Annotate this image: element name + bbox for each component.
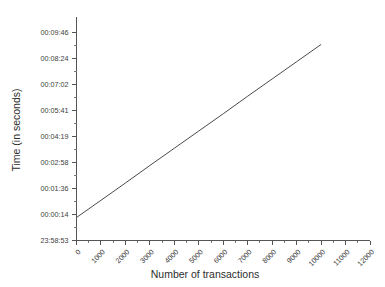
y-tick-label: 00:01:36 — [41, 184, 69, 193]
x-axis-title: Number of transactions — [151, 268, 260, 280]
y-axis-tick-labels: 23:58:5300:00:1400:01:3600:02:5800:04:19… — [41, 28, 69, 246]
y-tick-label: 00:00:14 — [41, 210, 69, 219]
y-tick-label: 00:05:41 — [41, 106, 69, 115]
line-chart: 23:58:5300:00:1400:01:3600:02:5800:04:19… — [0, 0, 385, 287]
chart-container: 23:58:5300:00:1400:01:3600:02:5800:04:19… — [0, 0, 385, 287]
y-tick-label: 00:02:58 — [41, 158, 69, 167]
y-tick-label: 00:09:46 — [41, 28, 69, 37]
y-axis-title: Time (in seconds) — [10, 88, 22, 171]
y-tick-label: 23:58:53 — [41, 236, 69, 245]
y-tick-label: 00:04:19 — [41, 132, 69, 141]
y-tick-label: 00:08:24 — [41, 54, 69, 63]
y-tick-label: 00:07:02 — [41, 80, 69, 89]
